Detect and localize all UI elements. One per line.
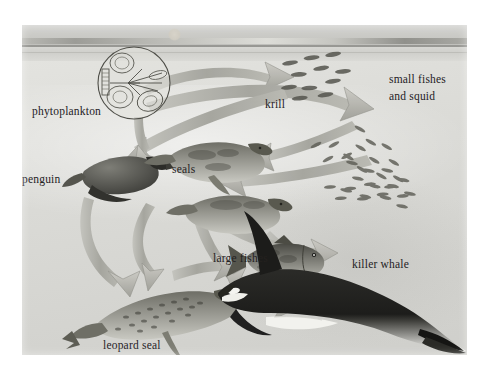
killer-whale-illustration xyxy=(218,211,466,353)
label-large-fishes: large fishes xyxy=(213,252,268,265)
seals-illustration xyxy=(144,142,292,234)
illustration-plate: phytoplankton krill small fishes and squ… xyxy=(22,25,467,355)
label-seals: seals xyxy=(172,163,195,176)
figure-canvas: phytoplankton krill small fishes and squ… xyxy=(0,0,486,373)
label-krill: krill xyxy=(265,98,285,111)
phytoplankton-illustration xyxy=(98,47,170,119)
krill-illustration xyxy=(281,51,351,102)
label-small-fishes: small fishes xyxy=(389,73,446,86)
label-phytoplankton: phytoplankton xyxy=(32,105,101,118)
label-penguin: penguin xyxy=(22,173,60,186)
label-killer-whale: killer whale xyxy=(352,258,409,271)
label-leopard-seal: leopard seal xyxy=(103,339,161,352)
label-and-squid: and squid xyxy=(389,90,435,103)
small-fishes-school-illustration xyxy=(310,124,420,210)
